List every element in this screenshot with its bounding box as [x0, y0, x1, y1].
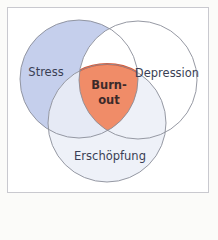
burnout-label-line2: out [91, 93, 127, 108]
stress-label: Stress [28, 65, 63, 79]
exhaustion-label: Erschöpfung [74, 149, 146, 163]
burnout-label: Burn- out [91, 78, 127, 108]
burnout-label-line1: Burn- [91, 78, 127, 93]
depression-label: Depression [135, 66, 199, 80]
